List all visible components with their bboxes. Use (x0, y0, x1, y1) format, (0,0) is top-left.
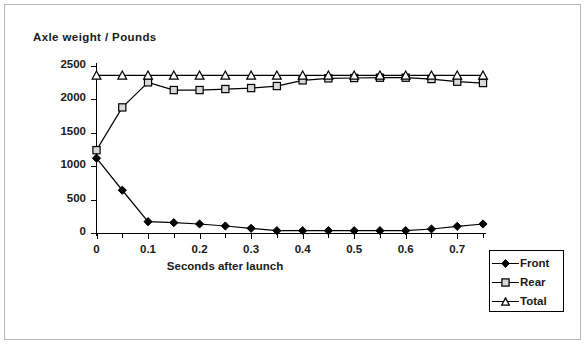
data-point-front (350, 227, 358, 235)
data-point-front (453, 222, 461, 230)
legend-item-rear[interactable]: Rear (492, 273, 561, 292)
data-point-front (195, 220, 203, 228)
data-point-front (247, 224, 255, 232)
data-point-front (273, 227, 281, 235)
series-total (92, 71, 487, 79)
data-point-front (427, 225, 435, 233)
data-point-rear (144, 79, 151, 86)
data-point-rear (170, 86, 177, 93)
data-point-front (299, 227, 307, 235)
data-point-rear (119, 104, 126, 111)
data-point-rear (479, 79, 486, 86)
open-square-icon (492, 276, 519, 290)
data-point-rear (273, 82, 280, 89)
data-point-rear (196, 86, 203, 93)
data-point-front (479, 220, 487, 228)
data-point-front (170, 219, 178, 227)
data-point-rear (93, 147, 100, 154)
data-point-front (402, 227, 410, 235)
chart-legend: Front Rear Total (489, 250, 564, 312)
series-line-rear (97, 78, 484, 150)
data-point-front (221, 222, 229, 230)
legend-label-total: Total (519, 296, 547, 308)
open-triangle-icon (492, 295, 519, 309)
filled-diamond-icon (492, 257, 519, 271)
data-point-front (324, 227, 332, 235)
legend-label-front: Front (519, 258, 549, 270)
legend-label-rear: Rear (519, 277, 546, 289)
series-line-front (97, 158, 484, 230)
legend-item-total[interactable]: Total (492, 292, 561, 311)
legend-item-front[interactable]: Front (492, 254, 561, 273)
data-point-rear (222, 85, 229, 92)
data-point-front (376, 227, 384, 235)
series-front (92, 154, 487, 235)
data-point-rear (248, 84, 255, 91)
chart-screenshot: Axle weight / Pounds 0500100015002000250… (0, 0, 586, 345)
series-rear (93, 74, 487, 154)
